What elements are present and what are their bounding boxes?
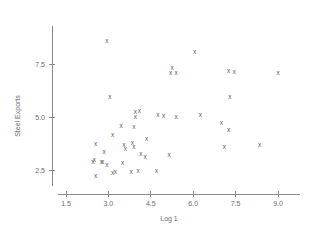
data-point-marker: x [276,69,280,76]
data-point-marker: x [111,131,115,138]
data-point-marker: x [121,159,125,166]
x-axis: 1.53.04.56.07.59.0 [58,191,300,207]
data-point-marker: x [228,93,232,100]
data-point-marker: x [227,67,231,74]
data-point-marker: x [199,111,203,118]
data-point-marker: x [124,145,128,152]
data-point-marker: x [105,37,109,44]
data-point-marker: x [162,112,166,119]
data-point-marker: x [103,148,107,155]
data-point-marker: x [227,126,231,133]
x-axis-tick-label: 1.5 [61,200,71,207]
data-point-marker: x [119,122,123,129]
x-axis-tick-label: 6.0 [188,200,198,207]
y-axis-title: Steel Exports [14,95,22,137]
y-axis: 2.55.07.5 [35,26,55,186]
data-point-marker: x [105,161,109,168]
data-point-marker: x [155,167,159,174]
x-axis-tick-label: 7.5 [231,200,241,207]
y-axis-tick-label: 2.5 [35,167,45,174]
x-axis-tick-label: 9.0 [273,200,283,207]
plot-canvas: 2.55.07.5 1.53.04.56.07.59.0 xxxxxxxxxxx… [0,0,315,238]
data-point-marker: x [132,143,136,150]
data-point-marker: x [193,48,197,55]
data-point-marker: x [175,113,179,120]
data-point-marker: x [220,119,224,126]
data-point-marker: x [132,123,136,130]
data-point-marker: x [108,93,112,100]
data-point-marker: x [156,111,160,118]
data-point-marker: x [136,167,140,174]
data-point-marker: x [94,172,98,179]
x-axis-tick-label: 4.5 [146,200,156,207]
data-point-marker: x [233,68,237,75]
x-axis-tick-label: 3.0 [104,200,114,207]
data-point-marker: x [129,168,133,175]
data-point-marker: x [258,141,262,148]
data-point-marker: x [168,151,172,158]
data-point-marker: x [144,153,148,160]
data-point-marker: x [223,143,227,150]
y-axis-tick-label: 5.0 [35,114,45,121]
data-point-marker: x [175,69,179,76]
scatter-plot-figure: 2.55.07.5 1.53.04.56.07.59.0 xxxxxxxxxxx… [0,0,315,238]
data-point-marker: x [114,168,118,175]
data-point-marker: x [138,107,142,114]
data-points: xxxxxxxxxxxxxxxxxxxxxxxxxxxxxxxxxxxxxxxx… [91,37,280,179]
x-axis-title: Log 1 [160,215,178,223]
data-point-marker: x [145,135,149,142]
y-axis-tick-label: 7.5 [35,61,45,68]
data-point-marker: x [94,140,98,147]
